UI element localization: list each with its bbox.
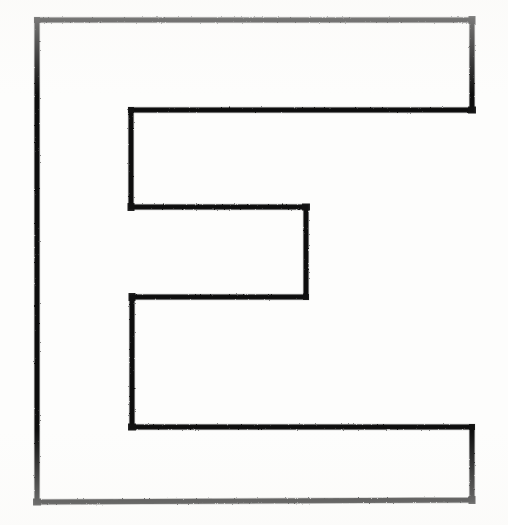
drawing-canvas [0, 0, 508, 525]
paper-background [0, 0, 508, 525]
e-shape-figure [0, 0, 508, 525]
